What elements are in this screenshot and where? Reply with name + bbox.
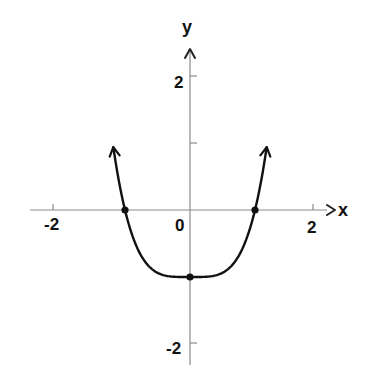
x-axis-arrow-icon <box>327 205 335 215</box>
y-tick-label-2: 2 <box>174 73 183 92</box>
marked-point <box>186 273 193 280</box>
function-graph: y x -2 2 0 2 -2 <box>0 0 370 386</box>
x-tick-label-neg2: -2 <box>44 215 59 234</box>
x-tick-label-pos2: 2 <box>307 218 316 237</box>
x-axis-label: x <box>338 200 348 220</box>
marked-point <box>121 206 128 213</box>
marked-point <box>251 206 258 213</box>
y-axis-label: y <box>182 17 192 37</box>
origin-label: 0 <box>175 216 184 235</box>
y-tick-label-neg2: -2 <box>166 339 181 358</box>
